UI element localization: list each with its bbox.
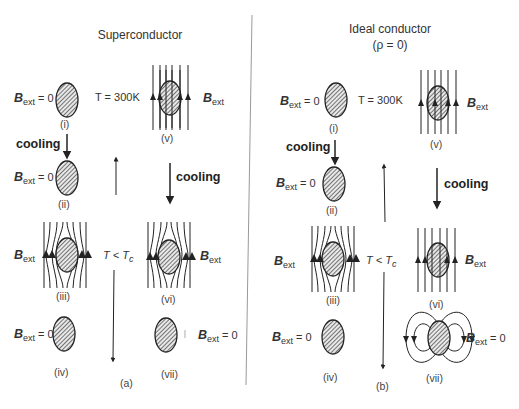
- a-v-label: (v): [161, 132, 173, 144]
- sample-b-vii: [428, 321, 450, 355]
- sample-a-iv: [53, 317, 75, 351]
- a-cooling-left: cooling: [16, 137, 60, 151]
- b-ii-label: (ii): [326, 204, 338, 216]
- sample-a-vii: [155, 318, 177, 352]
- a-iv-label: (iv): [54, 366, 69, 378]
- a-ii-label: (ii): [58, 198, 70, 210]
- a-vi-field: Bext: [200, 249, 221, 265]
- a-i-field: Bext = 0: [14, 91, 54, 107]
- b-iv-label: (iv): [323, 371, 338, 383]
- panel-b-subtitle: (ρ = 0): [330, 38, 450, 52]
- sample-b-i: [325, 83, 347, 117]
- b-vi-label: (vi): [429, 298, 444, 310]
- b-vi-field: Bext: [465, 253, 486, 269]
- b-iii-field: Bext: [274, 254, 295, 270]
- a-i-temperature: T = 300K: [95, 91, 140, 103]
- a-ii-field: Bext = 0: [14, 170, 54, 186]
- panel-b-caption: (b): [376, 380, 389, 392]
- panel-a-caption: (a): [120, 377, 133, 389]
- b-iv-field: Bext = 0: [272, 330, 312, 346]
- sample-a-i: [56, 83, 78, 117]
- sample-a-iii: [56, 238, 78, 272]
- b-v-label: (v): [430, 138, 442, 150]
- a-i-label: (i): [60, 118, 69, 130]
- panel-a-title: Superconductor: [80, 28, 200, 42]
- a-vii-label: (vii): [161, 368, 178, 380]
- b-i-temperature: T = 300K: [358, 94, 403, 106]
- a-cooling-right: cooling: [176, 170, 220, 184]
- b-vii-field: Bext = 0: [466, 331, 506, 347]
- b-temperature-axis: T < Tc: [366, 254, 396, 269]
- b-cooling-right: cooling: [444, 177, 488, 191]
- a-temperature-axis: T < Tc: [103, 249, 133, 264]
- b-i-label: (i): [329, 122, 338, 134]
- b-v-field: Bext: [467, 96, 488, 112]
- a-iv-field: Bext = 0: [14, 327, 54, 343]
- sample-a-v: [159, 81, 181, 115]
- b-ii-field: Bext = 0: [276, 176, 316, 192]
- b-iii-label: (iii): [326, 294, 340, 306]
- sample-b-v: [427, 86, 449, 120]
- a-v-field: Bext: [203, 91, 224, 107]
- sample-b-iii: [322, 242, 344, 276]
- sample-a-vi: [158, 240, 180, 274]
- a-iii-field: Bext: [14, 248, 35, 264]
- sample-b-ii: [323, 167, 345, 201]
- a-vi-label: (vi): [161, 293, 176, 305]
- diagram-canvas: [0, 0, 519, 409]
- a-iii-label: (iii): [56, 290, 70, 302]
- b-cooling-left: cooling: [286, 140, 330, 154]
- a-vii-field: Bext = 0: [198, 328, 238, 344]
- sample-b-iv: [322, 320, 344, 354]
- panel-divider: [246, 15, 252, 385]
- b-i-field: Bext = 0: [280, 94, 320, 110]
- sample-a-ii: [56, 161, 78, 195]
- b-vii-label: (vii): [426, 372, 443, 384]
- panel-b-title: Ideal conductor: [330, 22, 450, 36]
